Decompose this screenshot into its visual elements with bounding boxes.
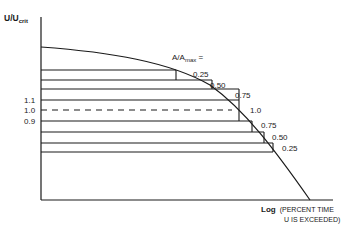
lower-step-label-0-75: 0.75	[261, 121, 277, 130]
y-tick-1-1: 1.1	[24, 96, 36, 105]
upper-step-label-0-75: 0.75	[235, 91, 251, 100]
x-axis-label-line2: U IS EXCEEDED)	[284, 216, 340, 224]
exceedance-diagram: U/Ucrit 1.1 1.0 0.9 A/Amax = 0.25 0.50 0…	[0, 0, 360, 231]
y-tick-0-9: 0.9	[24, 117, 36, 126]
upper-step-label-0-50: 0.50	[210, 81, 226, 90]
upper-steps	[41, 70, 239, 121]
lower-step-label-0-25: 0.25	[282, 144, 298, 153]
x-axis-label-line1: Log(PERCENT TIME	[261, 205, 334, 214]
y-axis-label: U/Ucrit	[4, 13, 28, 24]
lower-steps	[41, 121, 273, 152]
y-tick-1-0: 1.0	[24, 106, 36, 115]
reference-label-1-0: 1.0	[250, 106, 262, 115]
lower-step-label-0-50: 0.50	[272, 133, 288, 142]
legend-title: A/Amax =	[172, 53, 203, 63]
upper-step-label-0-25: 0.25	[193, 70, 209, 79]
